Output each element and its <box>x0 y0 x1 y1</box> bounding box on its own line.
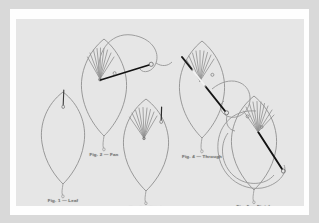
leaf-outline <box>41 92 84 184</box>
figure-1-caption: Fig. 1 — Leaf <box>48 198 79 203</box>
leaf-outline <box>179 41 224 138</box>
thread-loop-end <box>103 148 106 151</box>
figure-2-caption: Fig. 2 — Fan <box>89 152 118 157</box>
thread-tail <box>156 62 172 66</box>
figure-5-caption: Fig. 5 — Finish <box>237 204 272 206</box>
stem-thread <box>62 184 63 195</box>
needle-eye <box>160 120 163 123</box>
entry-point-marker <box>113 72 116 75</box>
needle-shaft <box>259 133 283 170</box>
stitch-fan <box>244 102 275 133</box>
needle-shaft <box>63 90 64 105</box>
stem-thread <box>103 136 104 148</box>
thread-loop-end <box>201 150 204 153</box>
diagram-canvas <box>16 19 304 206</box>
figure-4-group <box>179 41 250 153</box>
figure-3-group <box>123 99 168 205</box>
stitch-fan <box>187 51 215 82</box>
stem-thread <box>253 190 254 201</box>
figure-4-caption: Fig. 4 — Through <box>182 154 222 159</box>
needle-eye <box>149 62 153 66</box>
figure-sheet: Fig. 1 — Leaf Fig. 2 — Fan Fig. 3 — Stit… <box>0 0 319 223</box>
working-thread-loop-inner <box>222 133 274 183</box>
needle-eye <box>62 105 65 108</box>
figure-5-group <box>218 96 286 204</box>
diagram-plate: Fig. 1 — Leaf Fig. 2 — Fan Fig. 3 — Stit… <box>16 19 304 206</box>
stem-thread <box>201 138 202 150</box>
working-thread-loop <box>99 35 157 80</box>
stem-thread <box>145 191 146 202</box>
figure-3-caption: Fig. 3 — Stitch <box>129 205 163 206</box>
figure-1-group <box>41 90 84 198</box>
leaf-outline <box>81 39 126 136</box>
needle-eye <box>225 111 229 115</box>
entry-point-marker <box>211 73 214 76</box>
figure-2-group <box>81 35 172 151</box>
